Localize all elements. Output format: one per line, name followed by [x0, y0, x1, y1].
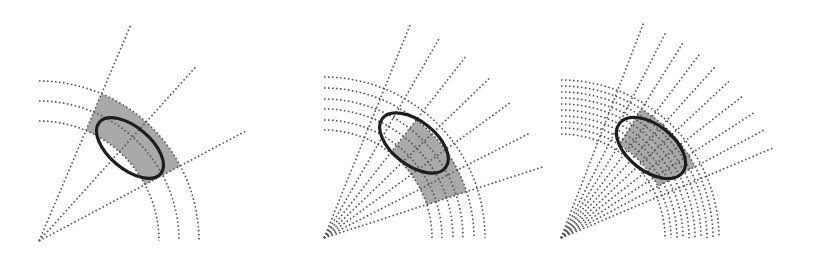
- figure: [0, 0, 815, 263]
- polar-grid-figure: [0, 0, 815, 263]
- panel-fine-grid: [561, 23, 773, 238]
